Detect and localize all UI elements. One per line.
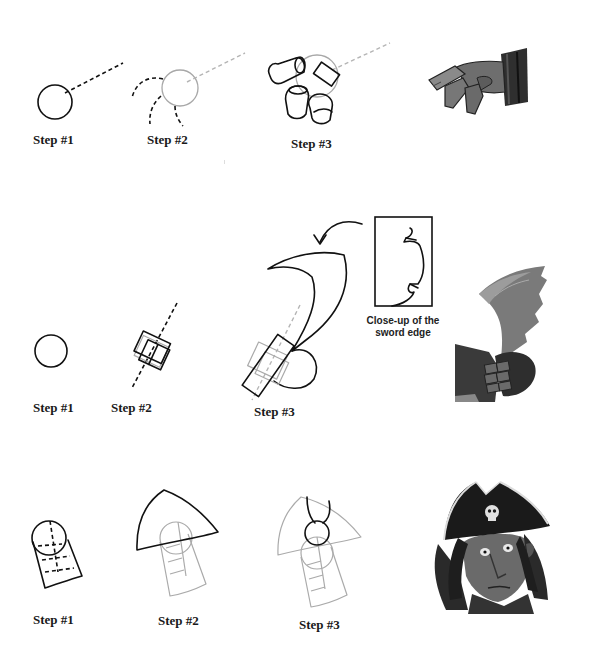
sword-step2-label: Step #2 xyxy=(111,400,152,416)
hand-step3-drawing xyxy=(262,48,402,128)
sword-step1-label: Step #1 xyxy=(33,400,74,416)
head-step2-label: Step #2 xyxy=(158,613,199,629)
pirate-hand-illustration xyxy=(425,48,535,123)
hand-step3-label: Step #3 xyxy=(291,136,332,152)
head-step1-drawing xyxy=(28,518,88,598)
pirate-head-illustration xyxy=(428,474,558,614)
sword-step3-drawing xyxy=(240,245,360,405)
head-step3-label: Step #3 xyxy=(299,617,340,633)
sword-step2-drawing xyxy=(125,300,185,395)
sword-edge-closeup-inset xyxy=(374,216,434,308)
closeup-caption: Close-up of the sword edge xyxy=(348,315,458,339)
hand-step1-drawing xyxy=(30,55,130,125)
sword-step1-drawing xyxy=(30,332,74,372)
pirate-sword-illustration xyxy=(455,260,565,402)
hand-step2-label: Step #2 xyxy=(147,132,188,148)
curved-arrow-icon xyxy=(310,218,370,250)
head-step1-label: Step #1 xyxy=(33,612,74,628)
sword-step3-label: Step #3 xyxy=(254,404,295,420)
hand-step2-drawing xyxy=(125,48,255,128)
closeup-caption-line1: Close-up of the xyxy=(367,315,440,326)
head-step3-drawing xyxy=(275,495,365,610)
page-mark xyxy=(224,160,225,164)
closeup-caption-line2: sword edge xyxy=(375,327,431,338)
hand-step1-label: Step #1 xyxy=(33,132,74,148)
head-step2-drawing xyxy=(132,486,222,601)
